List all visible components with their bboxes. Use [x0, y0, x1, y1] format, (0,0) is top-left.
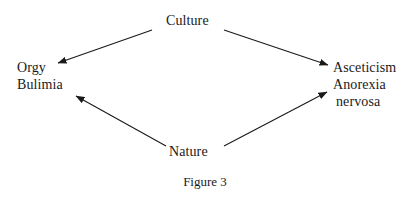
- node-label-orgy: Orgy: [17, 59, 63, 76]
- node-nature: Nature: [169, 143, 208, 160]
- arrow-nature-to-bulimia: [76, 96, 166, 146]
- node-label-bulimia: Bulimia: [17, 76, 63, 93]
- node-label-anorexia: Anorexia: [333, 76, 396, 93]
- node-label-asceticism: Asceticism: [333, 59, 396, 76]
- figure-diagram: Culture Orgy Bulimia Asceticism Anorexia…: [0, 0, 410, 203]
- figure-caption: Figure 3: [0, 174, 410, 190]
- node-orgy-bulimia: Orgy Bulimia: [17, 59, 63, 93]
- node-asceticism-anorexia: Asceticism Anorexia nervosa: [333, 59, 396, 110]
- arrow-culture-to-asceticism: [224, 30, 328, 65]
- arrow-nature-to-anorexia: [224, 92, 327, 146]
- node-culture: Culture: [166, 12, 209, 29]
- node-label-nervosa: nervosa: [333, 93, 396, 110]
- arrow-culture-to-orgy: [58, 30, 152, 63]
